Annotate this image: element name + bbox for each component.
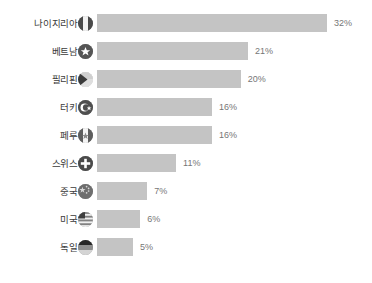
bar-value-label: 5%	[140, 242, 153, 253]
chart-row: 필리핀 20%	[0, 68, 372, 90]
bar-value-label: 20%	[248, 74, 266, 85]
bar-value-label: 16%	[219, 102, 237, 113]
flag-usa-icon	[78, 212, 93, 227]
chart-row: 독일 5%	[0, 236, 372, 258]
country-label: 독일	[0, 242, 78, 253]
bar-value-label: 21%	[255, 46, 273, 57]
flag-switzerland-icon	[78, 156, 93, 171]
flag-vietnam-icon	[78, 44, 93, 59]
flag-philippines-icon	[78, 72, 93, 87]
flag-china-icon	[78, 184, 93, 199]
chart-row: 터키 16%	[0, 96, 372, 118]
flag-turkey-icon	[78, 100, 93, 115]
country-label: 페루	[0, 130, 78, 141]
country-label: 중국	[0, 186, 78, 197]
country-label: 필리핀	[0, 74, 78, 85]
bar	[97, 210, 140, 228]
bar-value-label: 32%	[334, 18, 352, 29]
country-label: 미국	[0, 214, 78, 225]
bar	[97, 238, 133, 256]
chart-row: 중국 7%	[0, 180, 372, 202]
bar-value-label: 16%	[219, 130, 237, 141]
bar	[97, 42, 248, 60]
flag-nigeria-icon	[78, 16, 93, 31]
bar	[97, 126, 212, 144]
bar	[97, 14, 327, 32]
chart-row: 베트남 21%	[0, 40, 372, 62]
country-label: 터키	[0, 102, 78, 113]
bar-value-label: 7%	[154, 186, 167, 197]
chart-row: 나이지리아 32%	[0, 12, 372, 34]
bar	[97, 154, 176, 172]
country-label: 스위스	[0, 158, 78, 169]
country-label: 베트남	[0, 46, 78, 57]
bar	[97, 70, 241, 88]
bar-value-label: 11%	[183, 158, 200, 169]
flag-germany-icon	[78, 240, 93, 255]
bar	[97, 182, 147, 200]
chart-row: 미국 6%	[0, 208, 372, 230]
flag-peru-icon	[78, 128, 93, 143]
horizontal-bar-chart: 나이지리아 32%베트남 21%필리핀 20%터키 16%페루 16%스	[0, 0, 372, 283]
bar	[97, 98, 212, 116]
chart-row: 페루 16%	[0, 124, 372, 146]
chart-row: 스위스 11%	[0, 152, 372, 174]
country-label: 나이지리아	[0, 18, 78, 29]
bar-value-label: 6%	[147, 214, 160, 225]
